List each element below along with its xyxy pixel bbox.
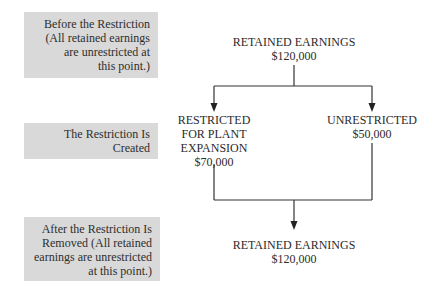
arrow-down-icon (211, 103, 218, 112)
node-unrestricted: UNRESTRICTED $50,000 (322, 113, 422, 141)
node-retained-earnings-top: RETAINED EARNINGS $120,000 (224, 35, 364, 63)
node-title-line: EXPANSION (164, 141, 264, 155)
node-title: UNRESTRICTED (322, 113, 422, 127)
node-title-line: RESTRICTED (164, 113, 264, 127)
arrow-down-icon (369, 103, 376, 112)
node-title: RETAINED EARNINGS (224, 238, 364, 252)
node-title-line: FOR PLANT (164, 127, 264, 141)
node-amount: $70,000 (164, 155, 264, 169)
arrow-down-icon (291, 221, 298, 230)
node-restricted-plant-expansion: RESTRICTED FOR PLANT EXPANSION $70,000 (164, 113, 264, 169)
node-amount: $120,000 (224, 49, 364, 63)
node-amount: $50,000 (322, 127, 422, 141)
node-retained-earnings-bottom: RETAINED EARNINGS $120,000 (224, 238, 364, 266)
node-amount: $120,000 (224, 252, 364, 266)
node-title: RETAINED EARNINGS (224, 35, 364, 49)
